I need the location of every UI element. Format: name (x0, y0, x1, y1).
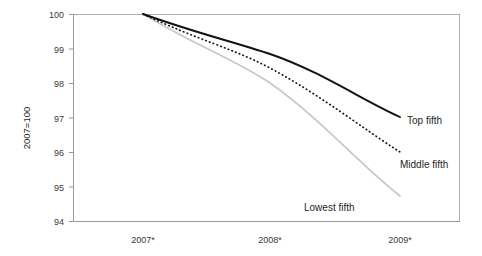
series-label-top-fifth: Top fifth (407, 115, 442, 126)
x-tick-label-2007: 2007* (131, 235, 155, 245)
x-tick-label-2008: 2008* (258, 235, 282, 245)
y-axis-title: 2007=100 (21, 107, 32, 150)
y-tick-label-100: 100 (49, 10, 64, 20)
y-tick-label-97: 97 (54, 114, 64, 124)
x-tick-label-2009: 2009* (388, 235, 412, 245)
chart-container: 100 99 98 97 96 95 94 2007=100 2007* 200… (0, 0, 482, 256)
y-tick-label-98: 98 (54, 79, 64, 89)
plot-area-background (73, 14, 460, 222)
y-tick-label-95: 95 (54, 183, 64, 193)
y-tick-label-94: 94 (54, 217, 64, 227)
series-label-lowest-fifth: Lowest fifth (304, 202, 355, 213)
line-chart: 100 99 98 97 96 95 94 2007=100 2007* 200… (0, 0, 482, 256)
y-tick-label-96: 96 (54, 148, 64, 158)
series-label-middle-fifth: Middle fifth (400, 159, 448, 170)
y-tick-label-99: 99 (54, 45, 64, 55)
